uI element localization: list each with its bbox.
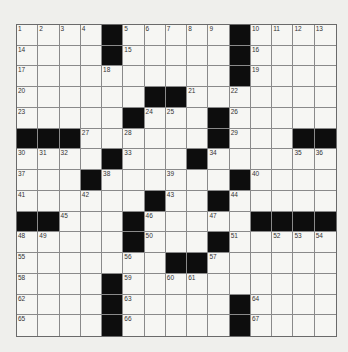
grid-cell[interactable]: 67 [251,315,272,336]
grid-cell[interactable]: 9 [208,25,229,46]
grid-cell[interactable] [187,170,208,191]
grid-cell[interactable] [60,170,81,191]
grid-cell[interactable]: 39 [166,170,187,191]
grid-cell[interactable] [272,253,293,274]
grid-cell[interactable] [166,232,187,253]
grid-cell[interactable] [293,315,314,336]
grid-cell[interactable] [123,66,144,87]
grid-cell[interactable]: 36 [315,149,336,170]
grid-cell[interactable]: 42 [81,191,102,212]
grid-cell[interactable] [102,129,123,150]
grid-cell[interactable] [315,170,336,191]
grid-cell[interactable] [38,191,59,212]
grid-cell[interactable]: 18 [102,66,123,87]
grid-cell[interactable] [208,295,229,316]
grid-cell[interactable] [102,253,123,274]
grid-cell[interactable] [166,66,187,87]
grid-cell[interactable]: 35 [293,149,314,170]
grid-cell[interactable]: 60 [166,274,187,295]
grid-cell[interactable]: 34 [208,149,229,170]
grid-cell[interactable] [60,315,81,336]
grid-cell[interactable] [315,274,336,295]
grid-cell[interactable] [208,274,229,295]
grid-cell[interactable] [187,295,208,316]
grid-cell[interactable] [315,108,336,129]
grid-cell[interactable] [293,274,314,295]
grid-cell[interactable] [81,108,102,129]
grid-cell[interactable] [102,212,123,233]
grid-cell[interactable] [251,108,272,129]
grid-cell[interactable] [187,108,208,129]
grid-cell[interactable] [38,274,59,295]
grid-cell[interactable] [123,87,144,108]
grid-cell[interactable]: 1 [17,25,38,46]
grid-cell[interactable] [208,315,229,336]
grid-cell[interactable]: 23 [17,108,38,129]
grid-cell[interactable] [187,66,208,87]
grid-cell[interactable]: 48 [17,232,38,253]
grid-cell[interactable] [208,46,229,67]
grid-cell[interactable] [315,46,336,67]
grid-cell[interactable] [81,253,102,274]
grid-cell[interactable] [123,170,144,191]
grid-cell[interactable] [145,253,166,274]
grid-cell[interactable]: 30 [17,149,38,170]
grid-cell[interactable]: 4 [81,25,102,46]
grid-cell[interactable]: 7 [166,25,187,46]
grid-cell[interactable] [60,191,81,212]
grid-cell[interactable]: 6 [145,25,166,46]
grid-cell[interactable] [272,149,293,170]
grid-cell[interactable]: 38 [102,170,123,191]
grid-cell[interactable] [38,253,59,274]
grid-cell[interactable] [166,129,187,150]
grid-cell[interactable] [38,108,59,129]
grid-cell[interactable] [166,212,187,233]
grid-cell[interactable] [123,191,144,212]
grid-cell[interactable] [272,129,293,150]
grid-cell[interactable] [315,253,336,274]
grid-cell[interactable] [145,315,166,336]
grid-cell[interactable]: 58 [17,274,38,295]
grid-cell[interactable] [60,232,81,253]
grid-cell[interactable]: 28 [123,129,144,150]
grid-cell[interactable] [208,170,229,191]
grid-cell[interactable] [60,46,81,67]
grid-cell[interactable]: 46 [145,212,166,233]
grid-cell[interactable] [81,315,102,336]
grid-cell[interactable] [230,212,251,233]
grid-cell[interactable]: 16 [251,46,272,67]
grid-cell[interactable]: 51 [230,232,251,253]
grid-cell[interactable] [272,170,293,191]
grid-cell[interactable] [208,87,229,108]
grid-cell[interactable] [272,315,293,336]
grid-cell[interactable] [293,108,314,129]
grid-cell[interactable] [315,295,336,316]
grid-cell[interactable]: 31 [38,149,59,170]
grid-cell[interactable]: 24 [145,108,166,129]
grid-cell[interactable]: 57 [208,253,229,274]
grid-cell[interactable] [187,315,208,336]
grid-cell[interactable]: 12 [293,25,314,46]
grid-cell[interactable] [272,108,293,129]
grid-cell[interactable]: 20 [17,87,38,108]
grid-cell[interactable] [81,66,102,87]
grid-cell[interactable]: 55 [17,253,38,274]
grid-cell[interactable] [145,149,166,170]
grid-cell[interactable] [293,295,314,316]
grid-cell[interactable] [38,295,59,316]
grid-cell[interactable]: 13 [315,25,336,46]
grid-cell[interactable]: 2 [38,25,59,46]
grid-cell[interactable] [166,315,187,336]
grid-cell[interactable] [272,87,293,108]
grid-cell[interactable] [145,274,166,295]
grid-cell[interactable]: 11 [272,25,293,46]
grid-cell[interactable] [272,46,293,67]
grid-cell[interactable] [102,87,123,108]
grid-cell[interactable] [60,66,81,87]
grid-cell[interactable] [315,191,336,212]
grid-cell[interactable]: 65 [17,315,38,336]
grid-cell[interactable]: 49 [38,232,59,253]
grid-cell[interactable]: 62 [17,295,38,316]
grid-cell[interactable] [230,149,251,170]
grid-cell[interactable] [293,170,314,191]
